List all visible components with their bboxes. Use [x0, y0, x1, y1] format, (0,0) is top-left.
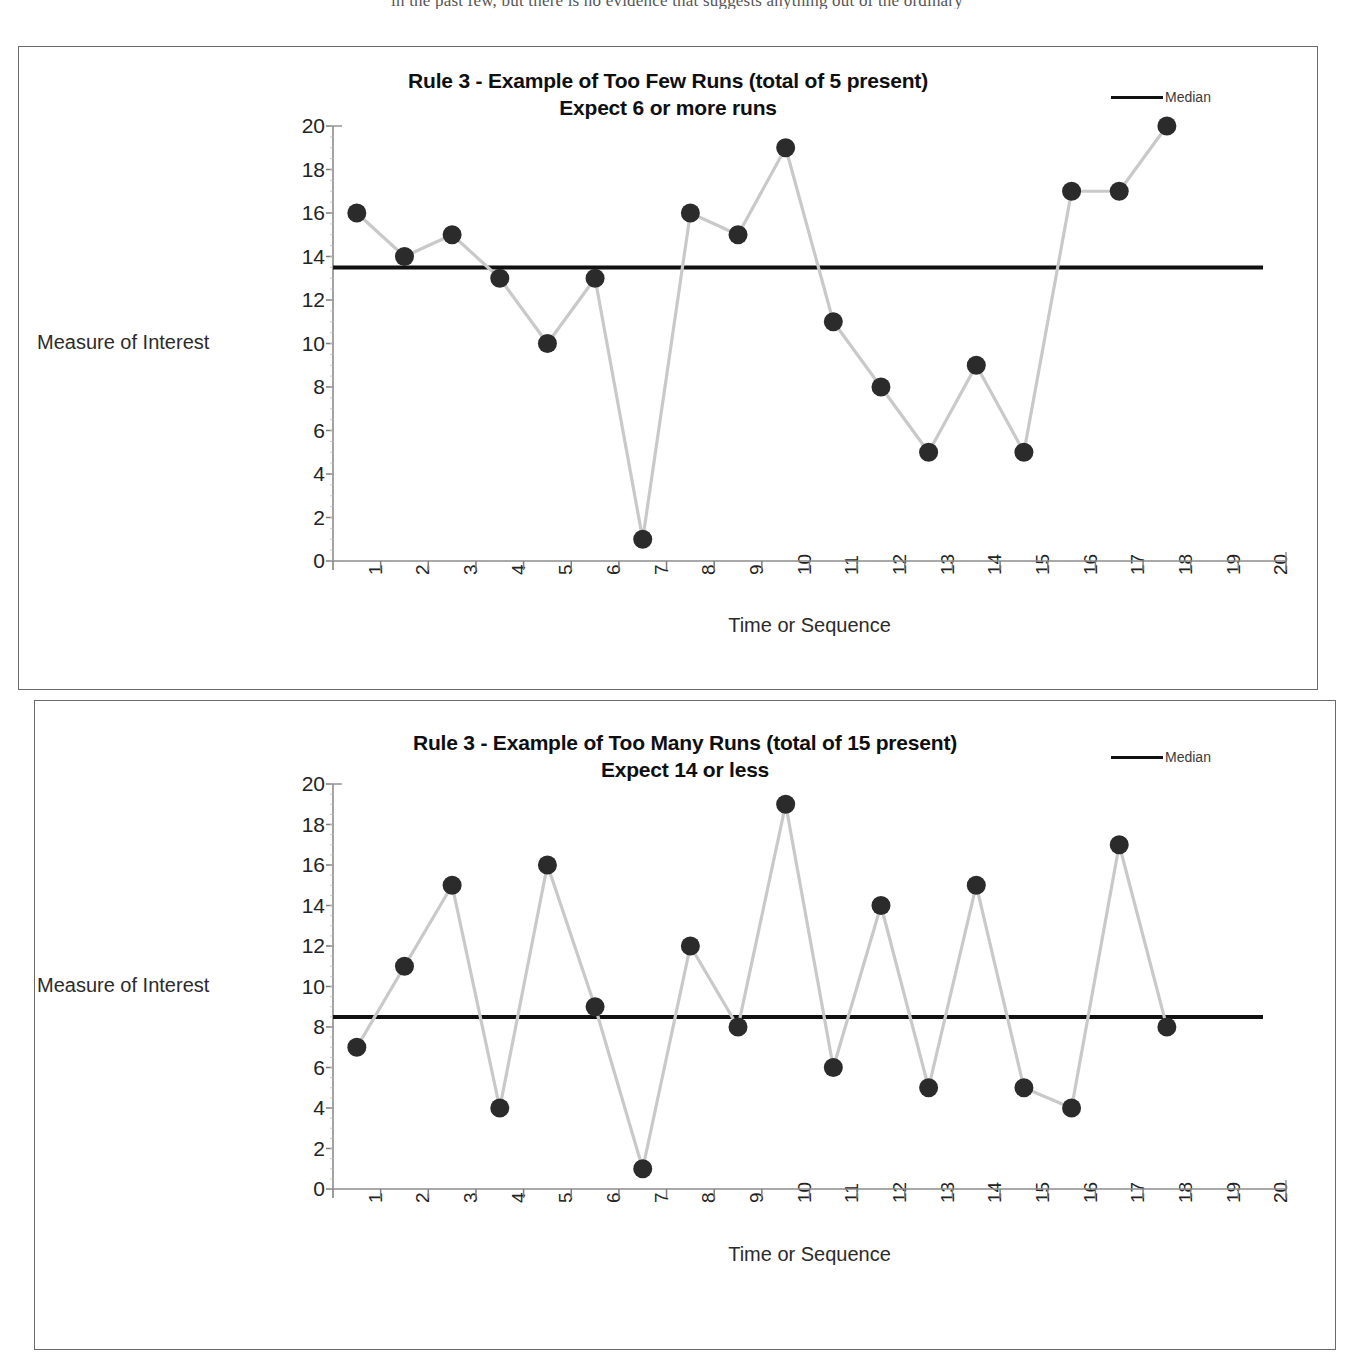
chart-panel-too-many-runs: Rule 3 - Example of Too Many Runs (total… [34, 700, 1336, 1350]
data-point-marker [681, 937, 700, 956]
data-point-marker [681, 204, 700, 223]
data-line [357, 804, 1167, 1169]
data-point-marker [395, 957, 414, 976]
data-point-marker [919, 443, 938, 462]
data-point-marker [776, 795, 795, 814]
data-point-marker [729, 1018, 748, 1037]
data-point-marker [967, 876, 986, 895]
data-point-marker [871, 896, 890, 915]
data-point-marker [776, 138, 795, 157]
data-point-marker [1110, 182, 1129, 201]
plot-area [35, 701, 1335, 1349]
data-point-marker [633, 530, 652, 549]
data-point-marker [1062, 182, 1081, 201]
data-point-marker [1014, 443, 1033, 462]
data-point-marker [967, 356, 986, 375]
data-point-marker [586, 269, 605, 288]
data-point-marker [824, 312, 843, 331]
data-point-marker [538, 856, 557, 875]
data-point-marker [633, 1159, 652, 1178]
data-point-marker [1014, 1078, 1033, 1097]
data-point-marker [490, 269, 509, 288]
data-point-marker [395, 247, 414, 266]
data-point-marker [919, 1078, 938, 1097]
data-point-marker [586, 997, 605, 1016]
data-point-marker [1062, 1099, 1081, 1118]
plot-area [19, 47, 1317, 689]
data-point-marker [443, 876, 462, 895]
data-point-marker [824, 1058, 843, 1077]
data-point-marker [490, 1099, 509, 1118]
clipped-document-text: in the past few, but there is no evidenc… [0, 0, 1354, 9]
data-point-marker [1157, 117, 1176, 136]
data-line [357, 126, 1167, 539]
data-point-marker [729, 225, 748, 244]
data-point-marker [538, 334, 557, 353]
data-point-marker [1157, 1018, 1176, 1037]
data-point-marker [443, 225, 462, 244]
data-point-marker [347, 1038, 366, 1057]
chart-panel-too-few-runs: Rule 3 - Example of Too Few Runs (total … [18, 46, 1318, 690]
data-point-marker [871, 378, 890, 397]
data-point-marker [347, 204, 366, 223]
data-point-marker [1110, 835, 1129, 854]
